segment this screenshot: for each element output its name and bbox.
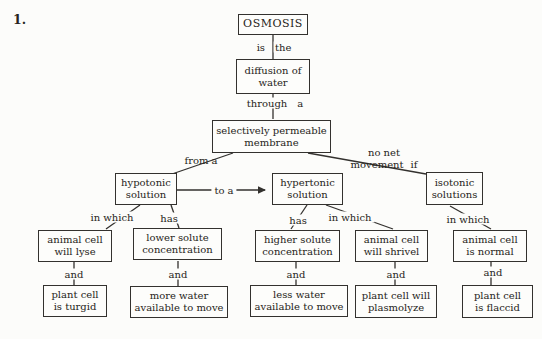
node-animal-cell-will-lyse: animal cell will lyse: [38, 230, 112, 262]
concept-map-worksheet: 1. OSMOSIS diffusion of water selectivel…: [0, 0, 542, 339]
edge-label-has-left: has: [157, 213, 181, 224]
edge-label-word: if: [410, 158, 419, 170]
node-less-water-available: less water available to move: [250, 285, 348, 317]
node-animal-cell-will-shrivel: animal cell will shrivel: [355, 230, 428, 262]
edge-label-word: is: [256, 42, 266, 53]
edge-label-and-5: and: [481, 267, 506, 278]
edge-label-word: a: [296, 98, 304, 109]
question-number: 1.: [13, 12, 26, 27]
edge-label-in-which-left: in which: [87, 212, 136, 223]
edge-label-and-1: and: [62, 269, 87, 280]
node-animal-cell-is-normal: animal cell is normal: [453, 230, 527, 262]
node-osmosis: OSMOSIS: [238, 14, 308, 35]
edge-label-has-middle: has: [286, 215, 310, 226]
edge-label-in-which-right: in which: [443, 214, 492, 225]
node-hypotonic-solution: hypotonic solution: [115, 173, 177, 205]
node-plant-cell-is-turgid: plant cell is turgid: [43, 285, 107, 317]
node-more-water-available: more water available to move: [130, 286, 228, 318]
node-plant-cell-is-flaccid: plant cell is flaccid: [462, 285, 533, 318]
node-plant-cell-will-plasmolyze: plant cell will plasmolyze: [355, 285, 437, 318]
node-selectively-permeable-membrane: selectively permeable membrane: [212, 120, 331, 153]
node-hypertonic-solution: hypertonic solution: [272, 173, 343, 205]
edge-label-and-2: and: [166, 269, 191, 280]
edge-label-no-net-movement-if: no net movement if: [350, 147, 419, 170]
edge-label-line2: movement if: [350, 158, 419, 170]
edge-label-line1: no net: [368, 147, 400, 159]
edge-label-through-a: through a: [246, 98, 305, 109]
node-lower-solute-concentration: lower solute concentration: [133, 228, 222, 260]
edge-label-word: through: [246, 98, 289, 109]
edge-label-to-a: to a: [211, 185, 236, 196]
node-diffusion-of-water: diffusion of water: [236, 59, 310, 94]
node-isotonic-solutions: isotonic solutions: [426, 172, 483, 205]
edge-label-and-3: and: [284, 269, 309, 280]
edge-label-and-4: and: [384, 269, 409, 280]
edge-label-in-which-middle: in which: [325, 212, 374, 223]
edge-label-from-a: from a: [184, 155, 217, 166]
edge-label-word: movement: [350, 158, 405, 170]
edge-label-word: the: [274, 42, 292, 53]
edge-label-is-the: is the: [256, 42, 293, 53]
node-higher-solute-concentration: higher solute concentration: [255, 230, 340, 262]
